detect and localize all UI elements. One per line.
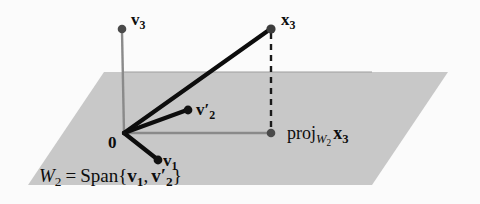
caption-operator: Span [80, 165, 118, 186]
vector-projection-diagram: v3 x3 v′2 0 v1 projW2x3 W2=Span{v1,v′2} [0, 0, 480, 204]
label-v3-name: v [131, 10, 140, 29]
point-v1 [154, 156, 163, 165]
label-projection-subspace-subscript: 2 [327, 138, 332, 148]
caption-close-brace: } [173, 165, 182, 186]
caption-subspace-subscript: 2 [55, 174, 62, 189]
point-projection [267, 129, 276, 138]
point-origin [122, 131, 126, 135]
label-projection-vector: x [333, 123, 342, 143]
caption-subspace-name: W [39, 165, 55, 186]
caption-comma: , [143, 165, 148, 186]
label-v2-prime-name: v [196, 100, 205, 119]
caption-equals: = [65, 165, 76, 186]
label-projection-subspace: W [316, 132, 327, 146]
point-x3 [266, 24, 275, 33]
caption-second-vector: v [151, 165, 161, 186]
label-x3: x3 [281, 11, 295, 32]
point-v3 [118, 25, 127, 34]
label-v2-prime: v′2 [196, 101, 215, 122]
label-v3-subscript: 3 [140, 18, 146, 32]
label-v2-prime-subscript: 2 [209, 108, 215, 122]
label-x3-subscript: 3 [290, 18, 296, 32]
label-projection-vector-subscript: 3 [342, 132, 348, 146]
caption-first-vector: v [127, 165, 137, 186]
caption-second-subscript: 2 [166, 174, 173, 189]
label-projection: projW2x3 [287, 124, 348, 148]
label-origin: 0 [108, 134, 117, 151]
point-v2-prime [184, 106, 193, 115]
label-v3: v3 [131, 11, 145, 32]
label-x3-name: x [281, 10, 290, 29]
label-projection-operator: proj [287, 123, 316, 143]
label-span-caption: W2=Span{v1,v′2} [39, 166, 182, 189]
caption-open-brace: { [118, 165, 127, 186]
